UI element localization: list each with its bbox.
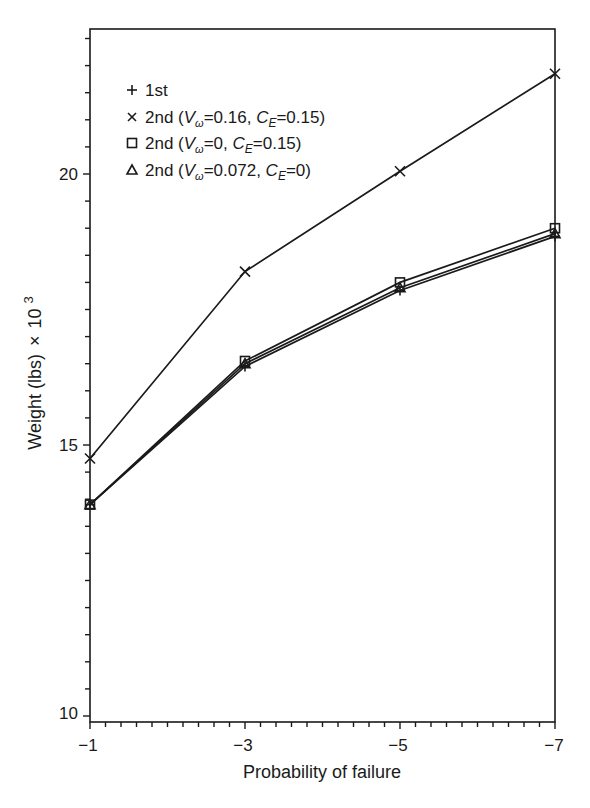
series-square xyxy=(86,224,560,509)
y-axis-title-main: Weight (lbs) xyxy=(25,354,45,450)
line-chart: 10 15 20 −1 −3 −5 −7 Probability of fail… xyxy=(0,0,590,808)
y-tick-label-10: 10 xyxy=(59,704,78,723)
y-axis-ticks xyxy=(83,39,90,717)
y-axis-title-base: 10 xyxy=(25,308,45,328)
x-axis-title: Probability of failure xyxy=(243,762,401,782)
y-axis-title: Weight (lbs) × 10 3 xyxy=(21,296,45,450)
y-axis-title-exp: 3 xyxy=(21,296,36,303)
x-tick-label-minus5: −5 xyxy=(388,736,407,755)
legend-label: 2nd (Vω=0, CE=0.15) xyxy=(145,134,302,156)
legend: 1st 2nd (Vω=0.16, CE=0.15) 2nd (Vω=0, CE… xyxy=(127,81,325,183)
legend-label: 2nd (Vω=0.072, CE=0) xyxy=(145,161,311,183)
triangle-marker-icon xyxy=(127,165,137,174)
y-tick-label-20: 20 xyxy=(59,165,78,184)
x-tick-label-minus3: −3 xyxy=(233,736,252,755)
series-triangle xyxy=(85,229,560,509)
x-marker-icon xyxy=(128,113,136,121)
legend-item-2nd-v016-ce015: 2nd (Vω=0.16, CE=0.15) xyxy=(128,108,325,130)
legend-label: 1st xyxy=(145,81,168,100)
y-axis-title-times: × xyxy=(25,336,45,347)
legend-label: 2nd (Vω=0.16, CE=0.15) xyxy=(145,108,325,130)
x-axis-ticks xyxy=(90,722,555,729)
x-tick-label-minus1: −1 xyxy=(78,736,97,755)
series-x xyxy=(85,69,560,464)
y-tick-label-15: 15 xyxy=(59,436,78,455)
legend-item-1st: 1st xyxy=(127,81,168,100)
plus-marker-icon xyxy=(127,85,137,95)
legend-item-2nd-v0-ce015: 2nd (Vω=0, CE=0.15) xyxy=(128,134,302,156)
series-plus xyxy=(85,231,560,509)
square-marker-icon xyxy=(128,139,137,148)
svg-text:Weight (lbs) × 10: Weight (lbs) × 10 3 xyxy=(21,296,45,450)
x-tick-label-minus7: −7 xyxy=(544,736,563,755)
legend-item-2nd-v0072-ce0: 2nd (Vω=0.072, CE=0) xyxy=(127,161,311,183)
